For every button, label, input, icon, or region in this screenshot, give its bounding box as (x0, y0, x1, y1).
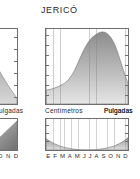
month-label: O (107, 153, 115, 159)
left-partial-chart-top (0, 28, 18, 105)
jerico-temperature-chart (45, 28, 129, 105)
month-label: A (66, 153, 73, 159)
jerico-month-labels: E F M A M J J A S O N D (45, 153, 129, 159)
month-label: F (52, 153, 59, 159)
metric-unit-caption: Centímetros (45, 107, 83, 114)
jerico-temperature-area (46, 29, 128, 104)
jerico-secondary-chart (45, 118, 129, 151)
left-partial-month-labels: O N D (0, 153, 20, 159)
month-label: D (12, 153, 20, 159)
month-label: E (45, 153, 52, 159)
right-partial-unit-caption: Pulgadas (104, 107, 133, 114)
month-label: N (4, 153, 12, 159)
jerico-secondary-area (46, 119, 128, 150)
month-label: A (93, 153, 100, 159)
month-label: S (100, 153, 107, 159)
month-label: D (122, 153, 129, 159)
month-label: M (59, 153, 67, 159)
month-label: M (73, 153, 81, 159)
left-partial-chart-top-svg (0, 29, 17, 104)
month-label: N (115, 153, 122, 159)
left-partial-chart-bottom-svg (0, 119, 17, 150)
page-title: JERICÓ (41, 5, 78, 15)
left-partial-chart-bottom (0, 118, 18, 151)
left-partial-unit-caption: ulgadas (0, 107, 23, 114)
